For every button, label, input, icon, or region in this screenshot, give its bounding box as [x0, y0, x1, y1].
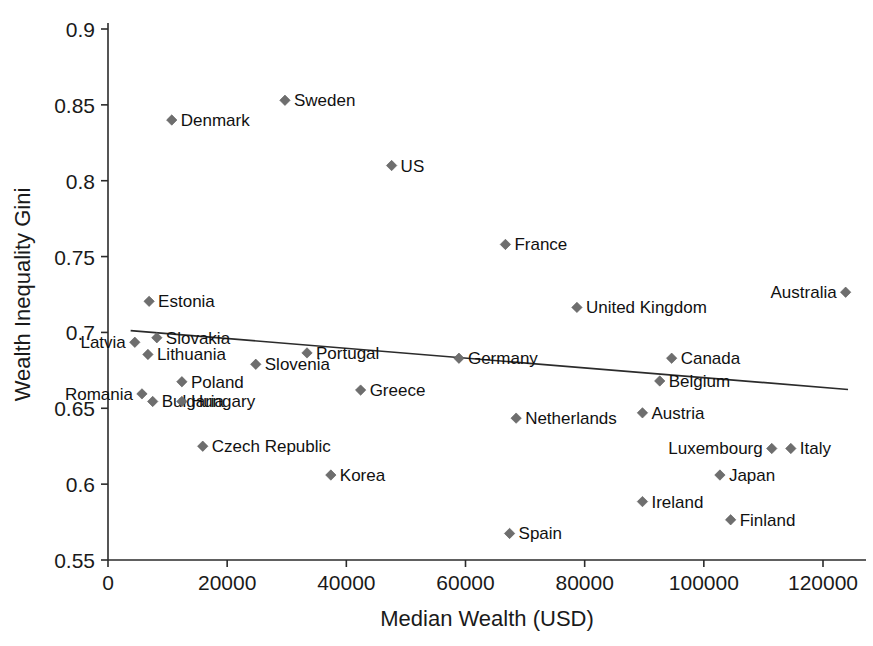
point-marker-diamond[interactable] — [147, 396, 157, 406]
data-point[interactable]: Austria — [637, 404, 705, 423]
point-label: Romania — [65, 385, 134, 404]
point-marker-diamond[interactable] — [355, 385, 365, 395]
data-point[interactable]: Luxembourg — [668, 439, 777, 458]
data-point[interactable]: France — [500, 235, 567, 254]
data-point[interactable]: Ireland — [637, 493, 703, 512]
point-label: Estonia — [158, 292, 215, 311]
point-marker-diamond[interactable] — [167, 115, 177, 125]
chart-canvas: 0.550.60.650.70.750.80.850.9020000400006… — [0, 0, 873, 646]
point-marker-diamond[interactable] — [144, 296, 154, 306]
data-point[interactable]: Spain — [504, 524, 562, 543]
point-label: Slovenia — [265, 355, 331, 374]
point-marker-diamond[interactable] — [504, 528, 514, 538]
point-label: Netherlands — [525, 409, 617, 428]
x-tick-label: 100000 — [669, 571, 739, 594]
point-label: Poland — [191, 373, 244, 392]
data-point[interactable]: Netherlands — [511, 409, 617, 428]
point-marker-diamond[interactable] — [251, 359, 261, 369]
point-label: Japan — [729, 466, 775, 485]
point-marker-diamond[interactable] — [280, 95, 290, 105]
x-tick-label: 20000 — [198, 571, 256, 594]
point-marker-diamond[interactable] — [715, 470, 725, 480]
y-tick-label: 0.8 — [66, 170, 95, 193]
point-marker-diamond[interactable] — [767, 443, 777, 453]
point-marker-diamond[interactable] — [198, 441, 208, 451]
point-marker-diamond[interactable] — [786, 443, 796, 453]
point-label: Luxembourg — [668, 439, 763, 458]
data-point[interactable]: United Kingdom — [572, 298, 707, 317]
point-label: Korea — [340, 466, 386, 485]
point-marker-diamond[interactable] — [137, 389, 147, 399]
y-tick-label: 0.75 — [54, 246, 95, 269]
point-label: Spain — [519, 524, 562, 543]
point-label: Sweden — [294, 91, 355, 110]
point-marker-diamond[interactable] — [152, 333, 162, 343]
axis-titles-group: Median Wealth (USD)Wealth Inequality Gin… — [10, 188, 594, 631]
point-label: Germany — [468, 349, 538, 368]
x-tick-label: 40000 — [317, 571, 375, 594]
data-point[interactable]: Greece — [355, 381, 425, 400]
point-marker-diamond[interactable] — [666, 353, 676, 363]
point-label: Ireland — [651, 493, 703, 512]
point-label: Hungary — [191, 392, 256, 411]
data-point[interactable]: Slovenia — [251, 355, 331, 374]
point-label: Australia — [771, 283, 838, 302]
x-tick-label: 60000 — [436, 571, 494, 594]
x-tick-label: 80000 — [555, 571, 613, 594]
y-tick-label: 0.6 — [66, 473, 95, 496]
point-label: Lithuania — [157, 345, 227, 364]
data-point[interactable]: Italy — [786, 439, 832, 458]
point-marker-diamond[interactable] — [655, 376, 665, 386]
point-marker-diamond[interactable] — [500, 239, 510, 249]
point-marker-diamond[interactable] — [637, 408, 647, 418]
x-tick-label: 0 — [102, 571, 114, 594]
data-point[interactable]: Czech Republic — [198, 437, 332, 456]
point-label: Italy — [800, 439, 832, 458]
point-label: Denmark — [181, 111, 250, 130]
x-axis-title: Median Wealth (USD) — [380, 606, 594, 631]
point-label: Austria — [651, 404, 704, 423]
point-label: United Kingdom — [586, 298, 707, 317]
point-label: Latvia — [80, 333, 126, 352]
data-point[interactable]: Sweden — [280, 91, 356, 110]
data-point[interactable]: US — [386, 157, 424, 176]
point-marker-diamond[interactable] — [725, 515, 735, 525]
point-marker-diamond[interactable] — [130, 337, 140, 347]
data-point[interactable]: Korea — [326, 466, 386, 485]
y-tick-label: 0.55 — [54, 549, 95, 572]
point-marker-diamond[interactable] — [386, 160, 396, 170]
data-point[interactable]: Australia — [771, 283, 851, 302]
scatter-chart: 0.550.60.650.70.750.80.850.9020000400006… — [0, 0, 873, 646]
data-point[interactable]: Estonia — [144, 292, 215, 311]
point-marker-diamond[interactable] — [572, 302, 582, 312]
data-point[interactable]: Latvia — [80, 333, 140, 352]
data-point[interactable]: Lithuania — [143, 345, 227, 364]
point-marker-diamond[interactable] — [326, 470, 336, 480]
point-marker-diamond[interactable] — [637, 496, 647, 506]
point-marker-diamond[interactable] — [177, 377, 187, 387]
y-tick-label: 0.85 — [54, 94, 95, 117]
point-label: Greece — [370, 381, 426, 400]
point-marker-diamond[interactable] — [840, 287, 850, 297]
point-marker-diamond[interactable] — [511, 413, 521, 423]
point-label: Finland — [740, 511, 796, 530]
y-axis-title: Wealth Inequality Gini — [10, 188, 35, 402]
point-label: US — [401, 157, 425, 176]
data-point[interactable]: Romania — [65, 385, 147, 404]
x-tick-label: 120000 — [788, 571, 858, 594]
y-tick-label: 0.9 — [66, 18, 95, 41]
data-point[interactable]: Poland — [177, 373, 244, 392]
data-point[interactable]: Canada — [666, 349, 740, 368]
data-points-group: DenmarkSwedenUSFranceAustraliaEstoniaUni… — [65, 91, 851, 543]
point-label: Canada — [681, 349, 741, 368]
point-marker-diamond[interactable] — [143, 349, 153, 359]
data-point[interactable]: Denmark — [167, 111, 251, 130]
point-label: France — [514, 235, 567, 254]
data-point[interactable]: Japan — [715, 466, 776, 485]
point-label: Belgium — [669, 372, 730, 391]
point-marker-diamond[interactable] — [454, 353, 464, 363]
point-label: Czech Republic — [212, 437, 332, 456]
data-point[interactable]: Finland — [725, 511, 795, 530]
